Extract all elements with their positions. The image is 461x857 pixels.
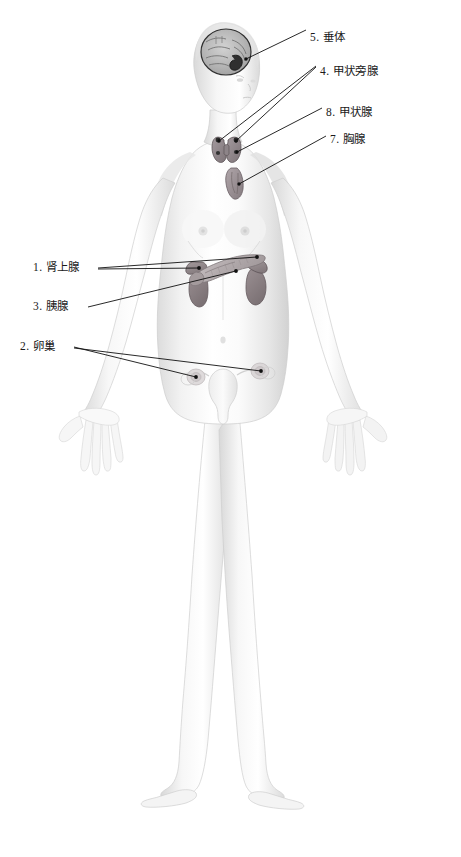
leg-right	[219, 400, 284, 800]
label-adrenal: 1. 肾上腺	[33, 262, 80, 274]
label-parathyroid: 4. 甲状旁腺	[320, 66, 378, 78]
diagram-canvas: 5. 垂体 4. 甲状旁腺 8. 甲状腺 7. 胸腺 1. 肾上腺 3. 胰腺 …	[0, 0, 461, 857]
parathyroid-lower-left	[216, 151, 220, 155]
label-thyroid: 8. 甲状腺	[326, 107, 373, 119]
navel	[220, 337, 225, 344]
label-thymus: 7. 胸腺	[330, 134, 366, 146]
brain-cutaway	[201, 29, 251, 75]
hand-left	[59, 408, 123, 475]
anatomy-figure	[0, 0, 461, 857]
label-pituitary: 5. 垂体	[310, 32, 346, 44]
label-pancreas: 3. 胰腺	[33, 301, 69, 313]
label-ovary: 2. 卵巢	[20, 341, 56, 353]
hand-right	[323, 408, 387, 475]
